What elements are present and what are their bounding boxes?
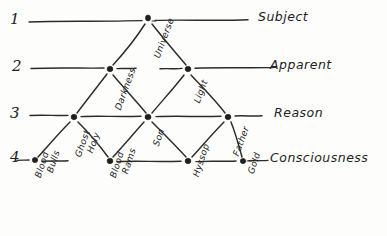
node-dot-darkness[interactable]	[107, 66, 113, 71]
diagram-canvas: 1 2 3 4 Subject Apparent Reason Consciou…	[0, 0, 387, 236]
sketch-layer	[0, 0, 387, 236]
level-rule-2-left	[31, 68, 104, 69]
level-number-3: 3	[10, 104, 20, 122]
edge-light-son	[152, 75, 184, 113]
level-number-4: 4	[10, 148, 20, 166]
level-number-1: 1	[10, 10, 20, 28]
node-dot-holy-ghost[interactable]	[71, 114, 77, 119]
edge-universe-darkness	[113, 24, 145, 65]
node-dot-light[interactable]	[185, 66, 191, 71]
node-dot-son[interactable]	[145, 114, 151, 120]
node-dot-father[interactable]	[225, 114, 231, 119]
edge-darkness-holyghost	[77, 74, 107, 113]
node-dot-gold[interactable]	[240, 158, 245, 163]
level-rule-1-left	[29, 21, 142, 22]
level-label-apparent: Apparent	[270, 57, 332, 72]
level-number-2: 2	[12, 57, 22, 75]
node-dot-hyssop[interactable]	[185, 158, 191, 163]
level-label-consciousness: Consciousness	[270, 150, 368, 165]
node-dot-universe[interactable]	[145, 15, 150, 21]
level-label-reason: Reason	[274, 105, 323, 120]
level-rule-2-right	[195, 67, 276, 68]
level-label-subject: Subject	[258, 9, 308, 24]
